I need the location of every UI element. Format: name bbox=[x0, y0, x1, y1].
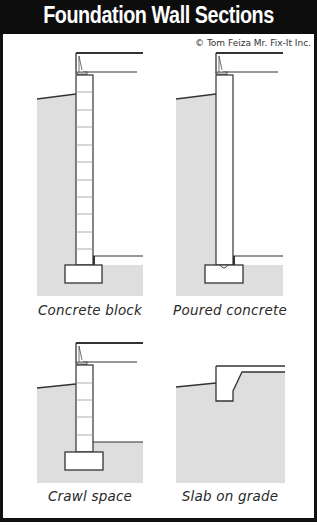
panel-concrete-block bbox=[37, 53, 143, 296]
caption-crawl-space: Crawl space bbox=[15, 488, 165, 504]
diagram-root: Foundation Wall Sections © Tom Feiza Mr.… bbox=[0, 0, 317, 527]
panel-poured-concrete bbox=[176, 53, 283, 296]
panel-crawl-space bbox=[37, 343, 143, 483]
panel-slab-on-grade bbox=[176, 366, 285, 483]
caption-concrete-block: Concrete block bbox=[15, 302, 165, 318]
caption-poured-concrete: Poured concrete bbox=[155, 302, 305, 318]
caption-slab-on-grade: Slab on grade bbox=[155, 488, 305, 504]
foundation-sections-drawing bbox=[0, 0, 317, 527]
